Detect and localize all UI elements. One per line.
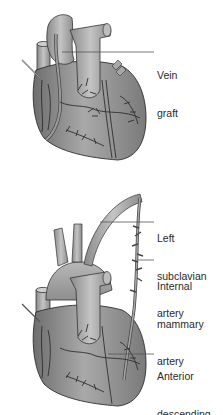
- label-vein-graft: Vein graft: [157, 44, 178, 132]
- label-line: Left: [157, 232, 207, 245]
- heart-top: [22, 15, 146, 160]
- label-line: mammary: [157, 318, 204, 331]
- label-line: graft: [157, 107, 178, 120]
- label-anterior-descending-branch: Anterior descending branch of the left c…: [157, 345, 218, 415]
- label-line: Vein: [157, 69, 178, 82]
- label-line: descending: [157, 408, 218, 415]
- label-line: Internal: [157, 280, 204, 293]
- label-line: Anterior: [157, 370, 218, 383]
- heart-bottom: [22, 194, 146, 406]
